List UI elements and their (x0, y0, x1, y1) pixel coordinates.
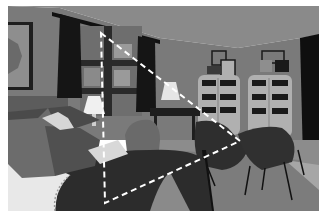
window-pane-light (84, 68, 100, 86)
curtain-left (57, 14, 82, 98)
bedroom-scene (0, 0, 325, 220)
desk-leg (192, 116, 195, 140)
curtain-right (136, 36, 156, 112)
window-mullion-h1 (80, 60, 142, 66)
window-pane-light (114, 70, 130, 86)
scene-content (8, 6, 319, 211)
desk (150, 108, 200, 116)
window-mullion-h2 (80, 88, 142, 94)
